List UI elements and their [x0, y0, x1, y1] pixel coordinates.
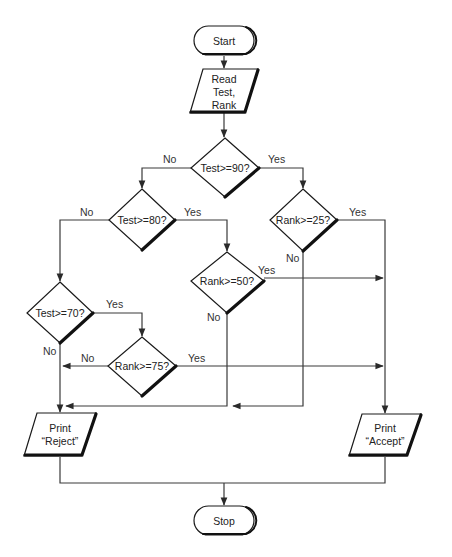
label-rank25-yes: Yes [349, 206, 366, 218]
stop-terminal: Stop [194, 506, 256, 535]
read-line-3: Rank [212, 99, 237, 111]
stop-label: Stop [213, 515, 235, 527]
reject-line-2: “Reject” [42, 435, 79, 447]
label-test70-yes: Yes [106, 298, 123, 310]
decision-rank-25-label: Rank>=25? [276, 214, 330, 226]
edge-test80-yes [175, 220, 227, 251]
reject-line-1: Print [49, 422, 71, 434]
label-rank50-yes: Yes [258, 264, 275, 276]
decision-test-90-label: Test>=90? [200, 162, 249, 174]
print-accept-node: Print “Accept” [349, 414, 421, 456]
decision-test-80-label: Test>=80? [117, 214, 166, 226]
decision-rank-25: Rank>=25? [270, 189, 337, 251]
decision-test-90: Test>=90? [191, 138, 259, 197]
read-input-node: Read Test, Rank [190, 69, 258, 113]
edge-merge-bottom [60, 457, 385, 483]
print-reject-node: Print “Reject” [24, 413, 96, 456]
label-test80-yes: Yes [184, 206, 201, 218]
label-rank50-no: No [207, 311, 221, 323]
edge-test90-no [142, 168, 191, 188]
label-rank25-no: No [286, 252, 300, 264]
decision-test-80: Test>=80? [109, 189, 175, 250]
read-line-2: Test, [213, 86, 235, 98]
decision-rank-50-label: Rank>=50? [200, 275, 254, 287]
edge-test70-yes [92, 313, 142, 336]
decision-test-70: Test>=70? [27, 282, 93, 343]
read-line-1: Read [211, 73, 236, 85]
decision-rank-75-label: Rank>=75? [115, 360, 169, 372]
label-test90-no: No [163, 153, 177, 165]
edge-labels: No Yes No Yes Yes No Yes No Yes No No Ye… [43, 153, 366, 364]
label-test70-no: No [43, 345, 57, 357]
decision-test-70-label: Test>=70? [35, 307, 84, 319]
edge-rank25-yes [337, 220, 385, 413]
decision-rank-50: Rank>=50? [191, 252, 264, 313]
label-test90-yes: Yes [268, 153, 285, 165]
accept-line-2: “Accept” [365, 435, 405, 447]
label-test80-no: No [80, 206, 94, 218]
label-rank75-yes: Yes [188, 352, 205, 364]
accept-line-1: Print [374, 422, 396, 434]
start-label: Start [213, 35, 235, 47]
start-terminal: Start [194, 26, 256, 55]
edge-test80-no [60, 220, 109, 281]
flowchart-canvas: Start Read Test, Rank Test>=90? Test>=80… [0, 0, 452, 557]
edge-test90-yes [259, 168, 303, 188]
label-rank75-no: No [81, 352, 95, 364]
decision-rank-75: Rank>=75? [108, 337, 176, 396]
